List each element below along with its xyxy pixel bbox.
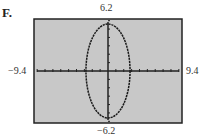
graph-window xyxy=(0,0,202,138)
